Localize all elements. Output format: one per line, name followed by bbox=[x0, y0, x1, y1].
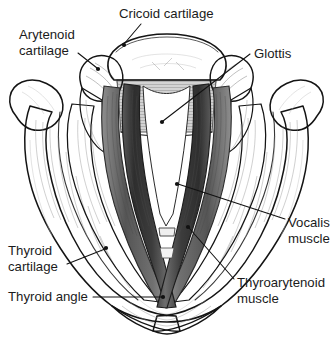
anatomy-illustration: Cricoid cartilage Arytenoidcartilage Glo… bbox=[0, 0, 333, 337]
label-vocalis-muscle: Vocalismuscle bbox=[288, 215, 330, 246]
label-thyroid-angle: Thyroid angle bbox=[8, 289, 88, 304]
label-glottis: Glottis bbox=[254, 46, 292, 61]
leader-dot-cricoid-cartilage bbox=[122, 43, 126, 47]
leader-dot-arytenoid-cartilage bbox=[96, 67, 100, 71]
larynx-anatomy-figure: Cricoid cartilage Arytenoidcartilage Glo… bbox=[0, 0, 333, 337]
leader-dot-vocalis-muscle bbox=[175, 182, 179, 186]
label-cricoid-cartilage: Cricoid cartilage bbox=[119, 6, 214, 21]
leader-dot-thyroid-angle bbox=[161, 295, 165, 299]
label-arytenoid-cartilage: Arytenoidcartilage bbox=[19, 27, 75, 58]
anterior-commissure-lower bbox=[160, 248, 174, 258]
leader-dot-glottis bbox=[160, 120, 164, 124]
leader-dot-thyroid-cartilage bbox=[104, 246, 108, 250]
label-thyroid-cartilage: Thyroidcartilage bbox=[8, 243, 58, 274]
leader-dot-thyroarytenoid-muscle bbox=[186, 225, 190, 229]
anterior-commissure bbox=[159, 228, 175, 236]
